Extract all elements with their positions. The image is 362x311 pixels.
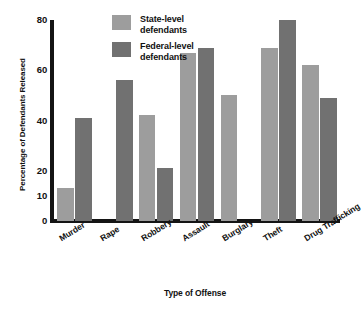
bar <box>157 168 174 221</box>
legend-item: Federal-leveldefendants <box>112 41 262 63</box>
y-tick-label: 10 <box>37 191 47 201</box>
legend-swatch <box>112 42 131 57</box>
y-tick-label: 40 <box>37 116 47 126</box>
y-tick-label: 20 <box>37 166 47 176</box>
bar <box>116 80 133 221</box>
y-tick-label: 0 <box>42 216 47 226</box>
bar <box>221 95 238 221</box>
y-tick-label: 80 <box>37 15 47 25</box>
bar <box>198 48 215 221</box>
legend: State-leveldefendantsFederal-leveldefend… <box>112 14 262 68</box>
x-axis-title: Type of Offense <box>50 288 340 298</box>
bar <box>279 20 296 221</box>
bar <box>75 118 92 221</box>
bar <box>320 98 337 221</box>
legend-item: State-leveldefendants <box>112 14 262 36</box>
bar <box>261 48 278 221</box>
bar-group <box>54 20 95 221</box>
y-axis-tick-labels: 01020406080 <box>0 0 47 311</box>
y-tick-label: 60 <box>37 66 47 76</box>
bar <box>180 53 197 221</box>
x-tick-label: Rape <box>98 224 121 243</box>
legend-label: Federal-leveldefendants <box>140 41 194 63</box>
bar <box>139 115 156 221</box>
legend-label: State-leveldefendants <box>140 14 187 36</box>
bar <box>57 188 74 221</box>
bar <box>302 65 319 221</box>
x-tick-label: Theft <box>262 224 284 243</box>
bar-group <box>258 20 299 221</box>
x-tick-label: Murder <box>57 220 86 243</box>
legend-swatch <box>112 15 131 30</box>
bar-group <box>299 20 340 221</box>
